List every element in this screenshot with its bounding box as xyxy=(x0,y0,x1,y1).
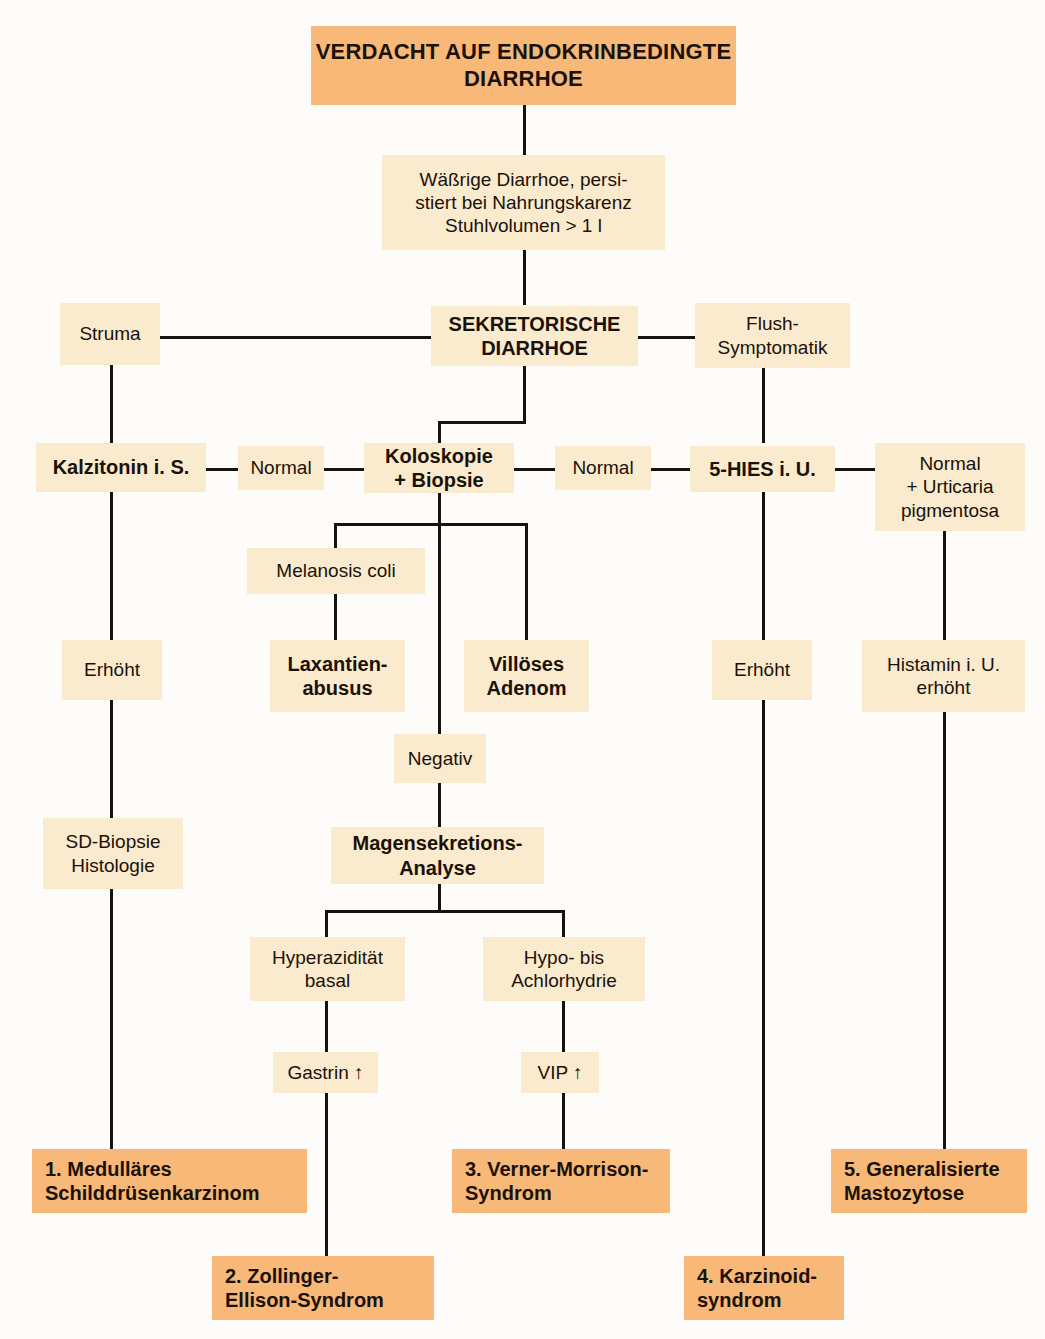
edge-colonoscopy-branch-bar xyxy=(334,523,528,526)
edge-secretory-drop xyxy=(523,366,526,424)
edge-histamine-to-dx5 xyxy=(943,712,946,1149)
edge-negativ-to-gastric xyxy=(438,783,441,827)
flowchart-canvas: VERDACHT AUF ENDOKRINBEDINGTE DIARRHOE W… xyxy=(0,0,1045,1339)
edge-normal-left-to-colonoscopy xyxy=(324,468,364,471)
node-gastrin-elevated: Gastrin ↑ xyxy=(273,1052,378,1093)
node-elevated-calcitonin: Erhöht xyxy=(62,640,162,700)
edge-colonoscopy-drop xyxy=(438,493,441,525)
edge-colonoscopy-to-normal-right xyxy=(514,468,555,471)
edge-normal-right-to-hies xyxy=(651,468,690,471)
edge-sd-biopsy-to-dx1 xyxy=(110,889,113,1149)
node-negativ: Negativ xyxy=(394,734,486,783)
edge-branch-center-to-negativ xyxy=(438,523,441,734)
node-hyperacidity-basal: Hyperazidität basal xyxy=(250,937,405,1001)
edge-secretory-to-flush xyxy=(638,336,695,339)
edge-calcitonin-to-elevated xyxy=(110,492,113,640)
edge-root-to-watery xyxy=(523,105,526,155)
node-watery-diarrhoea: Wäßrige Diarrhoe, persi- stiert bei Nahr… xyxy=(382,155,665,250)
edge-secretory-to-struma xyxy=(135,336,431,339)
node-struma: Struma xyxy=(60,303,160,365)
node-diagnosis-1: 1. Medulläres Schilddrüsenkarzinom xyxy=(32,1149,307,1213)
node-5-hies: 5-HIES i. U. xyxy=(690,446,835,492)
node-hypo-achlorhydria: Hypo- bis Achlorhydrie xyxy=(483,937,645,1001)
node-normal-urticaria: Normal + Urticaria pigmentosa xyxy=(875,443,1025,531)
edge-calcitonin-to-normal-left xyxy=(206,468,238,471)
node-secretory-diarrhoea: SEKRETORISCHE DIARRHOE xyxy=(431,306,638,366)
edge-branch-to-hypoacidity xyxy=(562,910,565,937)
edge-hies-to-urticaria xyxy=(835,468,875,471)
edge-hies-to-elevated-right xyxy=(762,492,765,640)
edge-branch-to-hyperacidity xyxy=(325,910,328,937)
edge-elevated-right-to-dx4 xyxy=(762,700,765,1256)
node-histamine-elevated: Histamin i. U. erhöht xyxy=(862,640,1025,712)
node-root: VERDACHT AUF ENDOKRINBEDINGTE DIARRHOE xyxy=(311,26,736,105)
edge-gastric-drop xyxy=(438,884,441,912)
node-colonoscopy-biopsy: Koloskopie + Biopsie xyxy=(364,443,514,493)
edge-urticaria-to-histamine xyxy=(943,531,946,640)
edge-vip-to-dx3 xyxy=(562,1093,565,1150)
node-diagnosis-4: 4. Karzinoid- syndrom xyxy=(684,1256,844,1320)
edge-branch-to-melanosis xyxy=(334,523,337,548)
node-laxative-abuse: Laxantien- abusus xyxy=(270,640,405,712)
node-vip-elevated: VIP ↑ xyxy=(521,1052,599,1093)
edge-flush-to-hies xyxy=(762,368,765,443)
node-calcitonin: Kalzitonin i. S. xyxy=(36,443,206,492)
node-diagnosis-2: 2. Zollinger- Ellison-Syndrom xyxy=(212,1256,434,1320)
edge-struma-to-calcitonin xyxy=(110,365,113,443)
edge-elevated-to-sd-biopsy xyxy=(110,700,113,818)
edge-melanosis-to-laxative xyxy=(334,594,337,640)
node-normal-left: Normal xyxy=(238,446,324,490)
node-diagnosis-5: 5. Generalisierte Mastozytose xyxy=(831,1149,1027,1213)
node-melanosis-coli: Melanosis coli xyxy=(247,548,425,594)
node-elevated-5hies: Erhöht xyxy=(712,640,812,700)
edge-branch-to-villous xyxy=(525,523,528,640)
edge-secretory-jog xyxy=(438,421,526,424)
edge-hyperacidity-to-gastrin xyxy=(325,1001,328,1052)
edge-gastric-branch-bar xyxy=(325,910,565,913)
node-flush-symptoms: Flush- Symptomatik xyxy=(695,303,850,368)
edge-watery-to-secretory xyxy=(523,250,526,305)
node-sd-biopsy-histology: SD-Biopsie Histologie xyxy=(43,818,183,889)
node-gastric-secretion-analysis: Magensekretions- Analyse xyxy=(331,827,544,884)
edge-gastrin-to-dx2 xyxy=(325,1093,328,1256)
node-villous-adenoma: Villöses Adenom xyxy=(464,640,589,712)
edge-hypoacidity-to-vip xyxy=(562,1001,565,1052)
edge-secretory-to-colonoscopy xyxy=(438,421,441,443)
node-normal-right: Normal xyxy=(555,446,651,490)
node-diagnosis-3: 3. Verner-Morrison- Syndrom xyxy=(452,1149,670,1213)
